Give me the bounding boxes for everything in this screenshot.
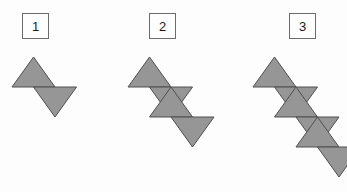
triangle — [253, 57, 296, 87]
figure-3: 3 — [0, 0, 347, 192]
triangle-strip-3 — [0, 0, 347, 192]
diagram-canvas: 123 — [0, 0, 347, 192]
triangle — [318, 147, 347, 177]
